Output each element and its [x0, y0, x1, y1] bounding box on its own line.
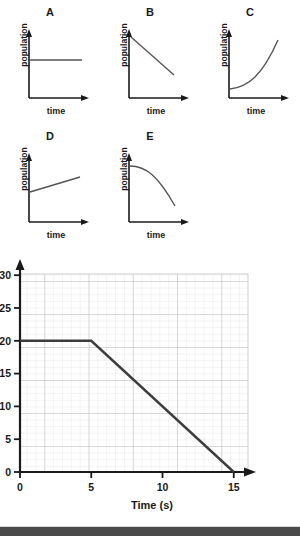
sketch-label-e: E [100, 130, 200, 142]
sketch-graph-row-bottom: D population time E population time [0, 128, 300, 248]
bottom-bar [0, 526, 300, 536]
y-tick-label: 10 [0, 400, 11, 412]
sketch-label-b: B [100, 6, 200, 18]
sketch-label-a: A [0, 6, 100, 18]
x-tick-label: 10 [157, 481, 169, 493]
sketch-data-line [30, 177, 80, 192]
sketch-y-axis-label: population [119, 137, 129, 201]
speed-time-chart: 0 5 10 15 20 25 30 0 5 10 15 Time (s) Sp… [0, 248, 300, 520]
sketch-x-arrow [81, 95, 89, 101]
y-tick-label: 0 [5, 466, 11, 478]
y-tick-label: 30 [0, 269, 11, 281]
x-axis-title: Time (s) [131, 499, 173, 511]
sketch-graph-e: E population time [100, 128, 200, 248]
chart-grid [20, 274, 248, 472]
sketch-y-axis-label: population [119, 13, 129, 77]
sketch-plot-a: population time [18, 26, 90, 104]
sketch-data-line [131, 37, 174, 75]
sketch-plot-b: population time [118, 26, 190, 104]
sketch-row-spacer [200, 128, 300, 248]
sketch-x-arrow [181, 219, 189, 225]
sketch-y-axis-label: population [19, 13, 29, 77]
sketch-graph-d: D population time [0, 128, 100, 248]
sketch-x-arrow [181, 95, 189, 101]
sketch-x-axis-label: time [124, 106, 188, 116]
sketch-x-axis-label: time [124, 230, 188, 240]
sketch-x-axis-label: time [24, 230, 88, 240]
x-tick-label: 0 [17, 481, 23, 493]
sketch-x-arrow [281, 95, 289, 101]
sketch-x-arrow [81, 219, 89, 225]
sketch-graph-a: A population time [0, 4, 100, 124]
sketch-plot-d: population time [18, 150, 90, 228]
sketch-graph-row-top: A population time B population time [0, 4, 300, 124]
y-tick-label: 15 [0, 367, 11, 379]
sketch-data-line [130, 166, 175, 206]
sketch-x-axis-label: time [24, 106, 88, 116]
sketch-plot-e: population time [118, 150, 190, 228]
x-tick-label: 5 [88, 481, 94, 493]
y-axis-arrow [16, 259, 25, 270]
sketch-label-c: C [200, 6, 300, 18]
sketch-data-line [230, 40, 278, 89]
y-tick-label: 25 [0, 302, 11, 314]
sketch-plot-c: population time [218, 26, 290, 104]
y-tick-label: 5 [5, 433, 11, 445]
x-tick-label: 15 [228, 481, 240, 493]
sketch-x-axis-label: time [224, 106, 288, 116]
sketch-graph-b: B population time [100, 4, 200, 124]
sketch-graph-c: C population time [200, 4, 300, 124]
y-tick-label: 20 [0, 335, 11, 347]
x-axis-arrow [244, 468, 256, 477]
sketch-y-axis-label: population [19, 137, 29, 201]
sketch-y-axis-label: population [219, 13, 229, 77]
sketch-label-d: D [0, 130, 100, 142]
